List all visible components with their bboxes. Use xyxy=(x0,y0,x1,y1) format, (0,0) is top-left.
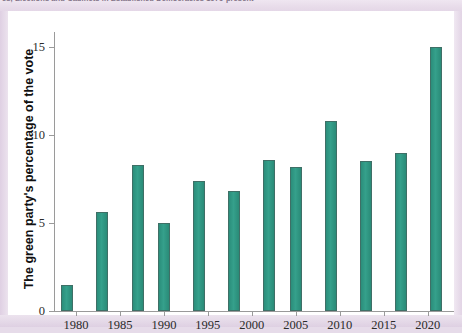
y-tick-mark xyxy=(49,135,54,136)
x-axis-line xyxy=(54,311,454,312)
y-tick-label: 5 xyxy=(39,216,45,231)
chart-figure-panel: The green party's percentage of the vote… xyxy=(8,11,454,315)
bar xyxy=(325,121,337,311)
x-tick-label: 1990 xyxy=(151,318,176,333)
bar xyxy=(158,223,170,311)
bar xyxy=(132,165,144,311)
page-gutter-right xyxy=(454,11,462,327)
y-tick-label: 15 xyxy=(33,40,46,55)
y-axis-line xyxy=(54,32,55,311)
y-tick-label: 10 xyxy=(33,128,46,143)
page-gutter-left xyxy=(0,11,8,327)
bar xyxy=(395,153,407,311)
x-tick-label: 2005 xyxy=(283,318,308,333)
bar xyxy=(96,212,108,311)
x-tick-mark xyxy=(164,311,165,316)
x-tick-label: 2020 xyxy=(415,318,440,333)
x-tick-label: 1995 xyxy=(195,318,220,333)
plot-area: 051015 198019851990199520002005201020152… xyxy=(54,26,454,316)
x-tick-mark xyxy=(340,311,341,316)
y-tick-mark xyxy=(49,311,54,312)
bar xyxy=(193,181,205,311)
running-head-strip: cs, Elections and Cabinets in Establishe… xyxy=(0,0,462,11)
y-axis-title: The green party's percentage of the vote xyxy=(20,26,38,311)
x-tick-mark xyxy=(76,311,77,316)
bar xyxy=(61,285,73,311)
y-axis-title-text: The green party's percentage of the vote xyxy=(22,48,36,289)
x-tick-mark xyxy=(120,311,121,316)
x-tick-mark xyxy=(208,311,209,316)
x-tick-label: 2000 xyxy=(239,318,264,333)
bar xyxy=(290,167,302,311)
x-tick-label: 2015 xyxy=(371,318,396,333)
y-tick-mark xyxy=(49,47,54,48)
x-tick-mark xyxy=(384,311,385,316)
x-tick-label: 2010 xyxy=(327,318,352,333)
bar xyxy=(228,191,240,311)
x-tick-mark xyxy=(252,311,253,316)
y-tick-label: 0 xyxy=(39,304,45,319)
bar xyxy=(360,161,372,311)
bar xyxy=(263,160,275,311)
x-tick-label: 1980 xyxy=(63,318,88,333)
y-tick-mark xyxy=(49,223,54,224)
x-tick-mark xyxy=(296,311,297,316)
bar xyxy=(430,47,442,311)
x-tick-label: 1985 xyxy=(107,318,132,333)
x-tick-mark xyxy=(428,311,429,316)
running-head-text: cs, Elections and Cabinets in Establishe… xyxy=(2,0,254,3)
